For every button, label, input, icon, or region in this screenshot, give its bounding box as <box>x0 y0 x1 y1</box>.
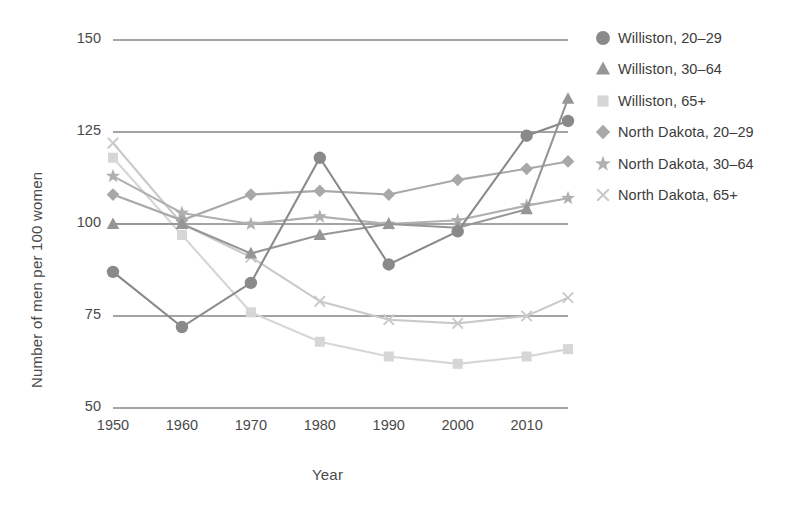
data-point-marker <box>562 92 575 104</box>
data-point-marker <box>315 337 325 347</box>
data-point-marker <box>108 138 118 148</box>
data-point-marker <box>382 188 395 201</box>
data-point-marker <box>176 321 188 333</box>
data-point-marker <box>522 351 532 361</box>
data-point-marker <box>520 162 533 175</box>
cross-icon <box>592 185 618 205</box>
data-point-marker <box>246 307 256 317</box>
legend-label: Williston, 30–64 <box>618 61 722 77</box>
data-point-marker <box>314 152 326 164</box>
line-chart: Number of men per 100 women Year 5075100… <box>0 0 795 513</box>
legend-item-2[interactable]: Williston, 65+ <box>592 85 792 117</box>
square-icon <box>592 91 618 111</box>
triangle-icon <box>592 59 618 79</box>
legend-label: North Dakota, 65+ <box>618 187 738 203</box>
data-point-marker <box>107 188 120 201</box>
data-point-marker <box>107 266 119 278</box>
data-point-marker <box>563 292 573 302</box>
legend-item-3[interactable]: North Dakota, 20–29 <box>592 117 792 149</box>
data-point-marker <box>451 173 464 186</box>
legend-label: Williston, 65+ <box>618 93 706 109</box>
legend-item-1[interactable]: Williston, 30–64 <box>592 54 792 86</box>
data-point-marker <box>453 359 463 369</box>
circle-icon <box>592 28 618 48</box>
chart-legend: Williston, 20–29Williston, 30–64Willisto… <box>592 22 792 211</box>
data-point-marker <box>108 153 118 163</box>
series-2 <box>108 153 573 369</box>
data-point-marker <box>177 230 187 240</box>
legend-label: North Dakota, 30–64 <box>618 156 754 172</box>
diamond-icon <box>592 122 618 142</box>
data-point-marker <box>384 351 394 361</box>
legend-item-0[interactable]: Williston, 20–29 <box>592 22 792 54</box>
data-point-marker <box>244 217 258 230</box>
data-point-marker <box>244 188 257 201</box>
data-point-marker <box>245 277 257 289</box>
legend-item-5[interactable]: North Dakota, 65+ <box>592 180 792 212</box>
legend-item-4[interactable]: North Dakota, 30–64 <box>592 148 792 180</box>
data-point-marker <box>562 155 575 168</box>
legend-label: North Dakota, 20–29 <box>618 124 754 140</box>
data-point-marker <box>313 184 326 197</box>
data-point-marker <box>313 209 327 222</box>
data-point-marker <box>561 191 575 204</box>
data-point-marker <box>106 169 120 182</box>
data-point-marker <box>562 115 574 127</box>
data-point-marker <box>383 258 395 270</box>
data-point-marker <box>563 344 573 354</box>
legend-label: Williston, 20–29 <box>618 30 722 46</box>
data-point-marker <box>520 129 532 141</box>
data-point-marker <box>451 225 463 237</box>
star-icon <box>592 154 618 174</box>
series-1 <box>107 92 575 258</box>
